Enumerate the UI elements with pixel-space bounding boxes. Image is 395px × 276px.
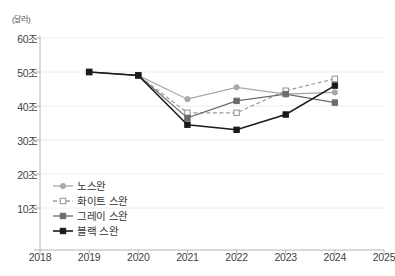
data-point <box>332 90 337 95</box>
legend-label: 그레이 스완 <box>77 208 128 223</box>
chart-legend: 노스완화이트 스완그레이 스완블랙 스완 <box>52 178 128 238</box>
series-1 <box>86 69 337 115</box>
legend-marker-icon <box>52 194 74 208</box>
data-point <box>234 110 239 115</box>
x-tick-label: 2021 <box>176 251 199 263</box>
x-tick-label: 2025 <box>373 251 395 263</box>
series-3 <box>86 69 337 132</box>
legend-label: 화이트 스완 <box>77 193 128 208</box>
data-point <box>185 122 190 127</box>
x-tick-label: 2019 <box>78 251 101 263</box>
x-tick-label: 2018 <box>29 251 52 263</box>
data-point <box>234 127 239 132</box>
legend-marker-icon <box>52 209 74 223</box>
legend-marker-icon <box>52 179 74 193</box>
data-point <box>136 73 141 78</box>
data-point <box>332 83 337 88</box>
series-line <box>89 72 335 99</box>
x-tick-label: 2022 <box>225 251 248 263</box>
x-tick-label: 2024 <box>324 251 347 263</box>
legend-item-2[interactable]: 그레이 스완 <box>52 208 128 223</box>
legend-label: 블랙 스완 <box>77 223 118 238</box>
legend-item-0[interactable]: 노스완 <box>52 178 128 193</box>
data-point <box>234 98 239 103</box>
legend-item-3[interactable]: 블랙 스완 <box>52 223 128 238</box>
legend-marker-icon <box>52 224 74 238</box>
data-point <box>283 112 288 117</box>
x-tick-label: 2020 <box>127 251 150 263</box>
data-point <box>86 69 91 74</box>
data-point <box>332 100 337 105</box>
x-tick-label: 2023 <box>274 251 297 263</box>
legend-item-1[interactable]: 화이트 스완 <box>52 193 128 208</box>
legend-label: 노스완 <box>77 178 106 193</box>
data-point <box>234 85 239 90</box>
data-point <box>185 110 190 115</box>
x-axis-tick-labels: 20182019202020212022202320242025 <box>0 251 392 267</box>
series-line <box>89 72 335 130</box>
data-point <box>332 76 337 81</box>
data-point <box>283 91 288 96</box>
series-line <box>89 72 335 118</box>
data-point <box>185 115 190 120</box>
series-2 <box>86 69 337 120</box>
data-point <box>185 97 190 102</box>
